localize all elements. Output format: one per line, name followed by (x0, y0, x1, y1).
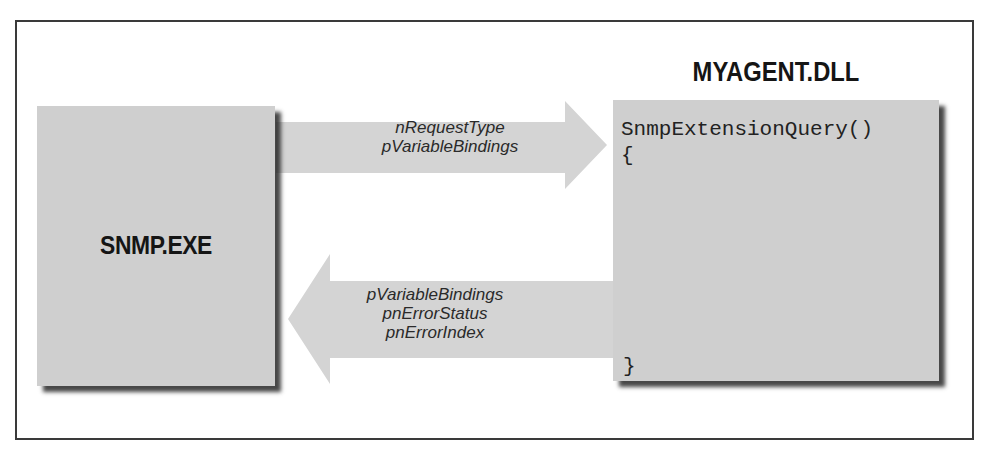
function-signature: SnmpExtensionQuery() (621, 118, 873, 141)
response-arrow-labels: pVariableBindings pnErrorStatus pnErrorI… (345, 285, 525, 342)
request-label-request-type: nRequestType (360, 118, 540, 137)
myagent-dll-box: SnmpExtensionQuery() { } (613, 100, 939, 381)
request-arrow-labels: nRequestType pVariableBindings (360, 118, 540, 156)
snmp-exe-box: SNMP.EXE (37, 106, 275, 386)
request-label-variable-bindings: pVariableBindings (360, 137, 540, 156)
myagent-dll-title: MYAGENT.DLL (633, 57, 920, 88)
close-brace: } (623, 355, 636, 378)
response-label-error-status: pnErrorStatus (345, 304, 525, 323)
response-label-variable-bindings: pVariableBindings (345, 285, 525, 304)
snmp-exe-label: SNMP.EXE (51, 230, 260, 261)
response-label-error-index: pnErrorIndex (345, 323, 525, 342)
open-brace: { (621, 144, 634, 167)
